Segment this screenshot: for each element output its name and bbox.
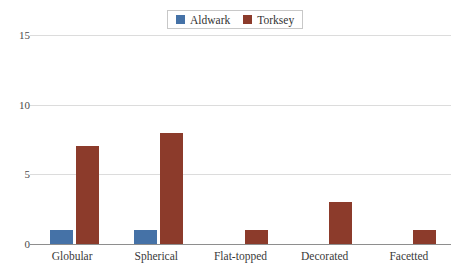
y-axis-tick-label: 5 <box>2 169 30 180</box>
bar-group <box>213 0 269 244</box>
bar-group <box>128 0 184 244</box>
bar-chart: Aldwark Torksey 051015 GlobularSpherical… <box>0 0 455 272</box>
x-axis-labels: GlobularSphericalFlat-toppedDecoratedFac… <box>30 247 451 269</box>
bar-group <box>44 0 100 244</box>
x-axis-tick-label: Flat-topped <box>198 247 282 265</box>
x-axis-tick-label: Globular <box>30 247 114 265</box>
bar-torksey-facetted <box>413 230 436 244</box>
y-axis-tick-label: 15 <box>2 30 30 41</box>
bar-group <box>297 0 353 244</box>
bar-groups <box>30 0 451 244</box>
bar-torksey-decorated <box>329 202 352 244</box>
x-axis-tick-label: Facetted <box>367 247 451 265</box>
bar-torksey-spherical <box>160 133 183 244</box>
bar-group <box>381 0 437 244</box>
y-axis-tick-label: 0 <box>2 239 30 250</box>
bar-torksey-flat-topped <box>245 230 268 244</box>
x-axis-tick-label: Spherical <box>114 247 198 265</box>
y-axis: 051015 <box>0 0 30 272</box>
bar-aldwark-spherical <box>134 230 157 244</box>
bar-aldwark-globular <box>50 230 73 244</box>
y-axis-tick-label: 10 <box>2 100 30 111</box>
x-axis-tick-label: Decorated <box>283 247 367 265</box>
bar-torksey-globular <box>76 146 99 244</box>
x-axis-line <box>30 244 451 245</box>
